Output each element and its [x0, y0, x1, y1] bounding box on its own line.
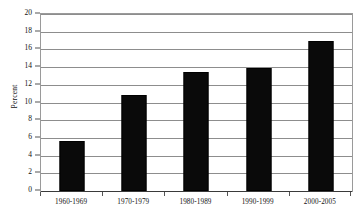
y-axis-tick-label: 6: [28, 133, 32, 141]
x-axis-tick-label: 2000-2005: [304, 198, 336, 206]
x-axis-ticks: 1960-19691970-19791980-19891990-19992000…: [40, 192, 353, 216]
x-axis-tick-label: 1990-1999: [242, 198, 274, 206]
x-axis-tick-mark: [164, 192, 165, 196]
bar: [246, 68, 271, 191]
bar: [184, 72, 209, 191]
x-axis-tick-mark: [350, 192, 351, 196]
bar-slot: [290, 14, 352, 191]
x-axis-tick-label: 1970-1979: [117, 198, 149, 206]
y-axis-tick-label: 16: [25, 45, 33, 53]
x-axis-tick-mark: [102, 192, 103, 196]
y-axis-title: Percent: [8, 0, 22, 192]
y-axis-tick-label: 2: [28, 169, 32, 177]
bar: [308, 41, 333, 191]
y-axis-ticks: 02468101214161820: [0, 0, 40, 192]
bar-series: [41, 14, 352, 191]
y-axis-tick-label: 4: [28, 151, 32, 159]
chart-figure: Percent 02468101214161820 1960-19691970-…: [0, 0, 362, 220]
y-axis-tick-label: 18: [25, 27, 33, 35]
x-axis-tick-label: 1980-1989: [179, 198, 211, 206]
y-axis-title-text: Percent: [11, 84, 20, 108]
bar: [60, 141, 85, 191]
plot-area: [40, 13, 353, 192]
y-axis-tick-label: 0: [28, 186, 32, 194]
bar-slot: [228, 14, 290, 191]
y-axis-tick-label: 20: [25, 9, 33, 17]
x-axis-tick-mark: [40, 192, 41, 196]
y-axis-tick-label: 8: [28, 115, 32, 123]
y-axis-tick-label: 14: [25, 62, 33, 70]
bar-slot: [165, 14, 227, 191]
x-axis-tick-mark: [227, 192, 228, 196]
bar: [122, 95, 147, 191]
bar-slot: [103, 14, 165, 191]
y-axis-tick-label: 10: [25, 98, 33, 106]
bar-slot: [41, 14, 103, 191]
y-axis-tick-label: 12: [25, 80, 33, 88]
x-axis-tick-mark: [289, 192, 290, 196]
x-axis-tick-label: 1960-1969: [55, 198, 87, 206]
